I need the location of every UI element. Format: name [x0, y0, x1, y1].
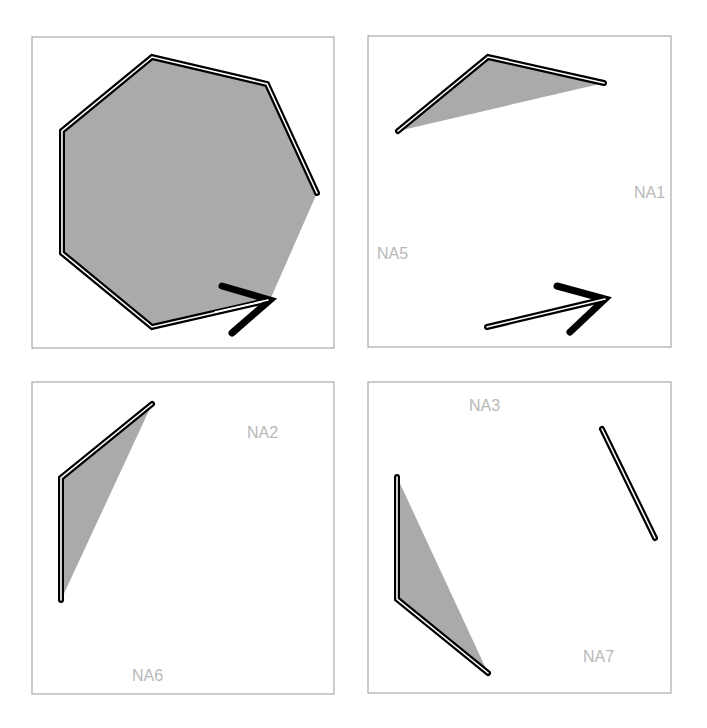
panel-4: NA3 NA7: [368, 382, 671, 693]
label-na2: NA2: [247, 424, 278, 441]
panel-2: NA1 NA5: [368, 36, 671, 347]
label-na6: NA6: [132, 667, 163, 684]
panel-3: NA2 NA6: [32, 382, 334, 694]
panel-1: [32, 37, 334, 348]
label-na5: NA5: [377, 245, 408, 262]
label-na3: NA3: [469, 397, 500, 414]
label-na1: NA1: [634, 184, 665, 201]
label-na7: NA7: [583, 648, 614, 665]
figure-canvas: NA1 NA5 NA2 NA6 NA3 NA7: [0, 0, 707, 728]
